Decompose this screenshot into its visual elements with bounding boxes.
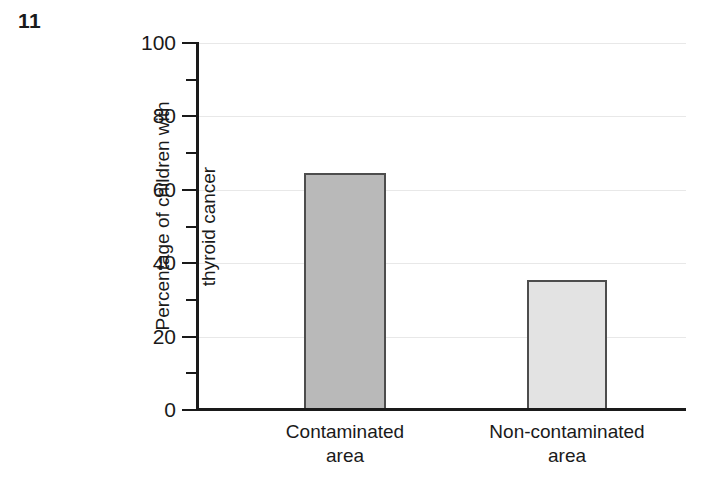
figure-container: 11 020406080100 Percentage of children w… (0, 0, 710, 483)
figure-number: 11 (18, 10, 41, 31)
x-axis-line (196, 408, 686, 411)
gridline-40 (198, 263, 686, 264)
y-axis-title-line-1: Percentage of children with (152, 101, 173, 330)
gridline-100 (198, 43, 686, 44)
gridline-20 (198, 337, 686, 338)
gridline-80 (198, 116, 686, 117)
category-label-1-line-1: Contaminated (286, 421, 404, 442)
category-label-2-line-2: area (447, 444, 687, 468)
category-label-1: Contaminatedarea (225, 420, 465, 468)
plot-area (198, 43, 686, 410)
bar-1[interactable] (304, 173, 386, 410)
y-axis-title-line-2: thyroid cancer (197, 43, 220, 410)
gridline-60 (198, 190, 686, 191)
category-label-2: Non-contaminatedarea (447, 420, 687, 468)
category-label-1-line-2: area (225, 444, 465, 468)
category-label-2-line-1: Non-contaminated (489, 421, 644, 442)
bar-2[interactable] (527, 280, 607, 410)
y-axis-title: Percentage of children with thyroid canc… (128, 43, 266, 410)
